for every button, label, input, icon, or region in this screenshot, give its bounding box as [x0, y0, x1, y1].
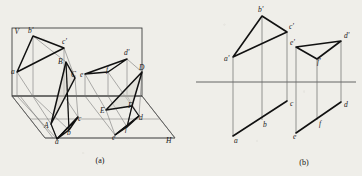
- tri1-front-projection: [17, 36, 64, 72]
- label-c-prime-a: c': [62, 37, 67, 46]
- label-B-a: B: [58, 57, 63, 66]
- label-b-prime-b: b': [258, 5, 264, 14]
- label-d-prime-a: d': [124, 48, 130, 57]
- label-C-a: C: [71, 70, 77, 79]
- label-b-prime-a: b': [28, 26, 34, 35]
- label-d-a: d: [139, 113, 143, 122]
- label-d-prime-b: d': [344, 31, 350, 40]
- label-a-a: a: [55, 137, 59, 146]
- label-plane-h: H: [165, 136, 172, 145]
- label-E-a: E: [99, 106, 105, 115]
- panel-b-group: a' b' c' a b c e' d' f' e f d: [196, 5, 356, 145]
- tri2-top-view-b: [296, 102, 341, 133]
- label-f-b: f: [319, 119, 322, 128]
- label-a-b: a: [234, 136, 238, 145]
- technical-drawing-svg: V H a b' c' A B C a b c e d' f E D F e f…: [0, 0, 362, 176]
- tri2-space: [106, 72, 142, 110]
- label-e-prime-b: e': [290, 38, 295, 47]
- label-c-a: c: [78, 114, 82, 123]
- label-f-prime-b: f': [317, 57, 321, 66]
- figure-root: V H a b' c' A B C a b c e d' f E D F e f…: [0, 0, 362, 176]
- tri1-top-view-b: [233, 101, 287, 136]
- panel-a-group: V H a b' c' A B C a b c e d' f E D F e f…: [11, 26, 175, 146]
- label-e-prime-a: e: [80, 70, 84, 79]
- tri1-front-view-b: [233, 16, 287, 57]
- label-c-b: c: [290, 99, 294, 108]
- label-c-prime-b: c': [289, 22, 294, 31]
- label-F-a: F: [127, 101, 133, 110]
- caption-a: (a): [96, 156, 105, 165]
- caption-b: (b): [299, 158, 309, 167]
- label-A-a: A: [43, 121, 49, 130]
- label-d-b: d: [344, 100, 348, 109]
- label-a-prime-b: a': [224, 54, 230, 63]
- label-b-a: b: [67, 128, 71, 137]
- label-a-prime-a: a: [11, 67, 15, 76]
- label-b-b: b: [263, 120, 267, 129]
- label-D-a: D: [138, 63, 145, 72]
